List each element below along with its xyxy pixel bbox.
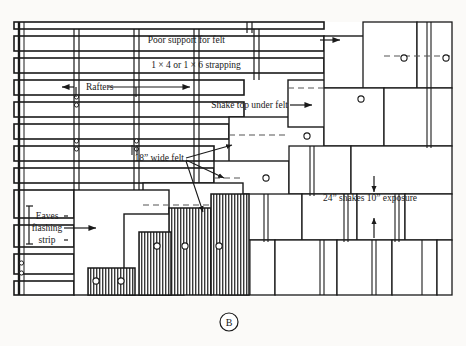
eaves-label-line2: flashing [32,223,63,233]
wide-felt-label: 18” wide felt [134,153,184,163]
roof-construction-diagram: Poor support for felt 1 × 4 or 1 × 6 str… [0,0,466,346]
caption-letter: B [226,317,233,328]
eaves-label-line1: Eaves [36,211,59,221]
exposure-label: 24” shakes 10” exposure [323,193,417,203]
poor-support-label: Poor support for felt [148,35,226,45]
figure-container: Poor support for felt 1 × 4 or 1 × 6 str… [0,0,466,346]
rafters-label: Rafters [86,82,114,92]
eaves-label-line3: strip [39,235,56,245]
strapping-label: 1 × 4 or 1 × 6 strapping [151,60,241,70]
figure-caption: B [220,313,238,331]
shake-top-label: Shake top under felt [211,100,288,110]
